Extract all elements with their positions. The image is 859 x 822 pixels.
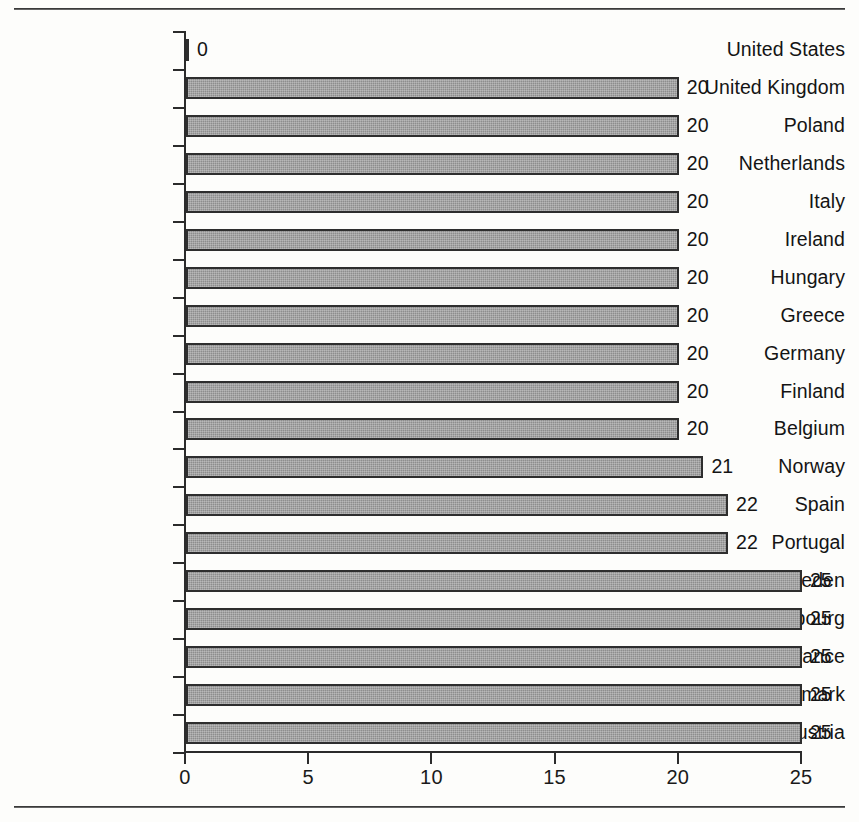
y-axis-tick <box>173 752 184 754</box>
y-axis-tick <box>173 69 184 71</box>
bar-value-label: 25 <box>810 569 832 591</box>
category-label: Ireland <box>683 228 859 250</box>
bar <box>186 418 679 440</box>
bar <box>186 494 728 516</box>
x-axis-tick-label: 0 <box>155 766 215 789</box>
bar-value-label: 22 <box>736 493 758 515</box>
x-axis-tick-label: 5 <box>278 766 338 789</box>
bar-value-label: 0 <box>197 38 208 60</box>
bar-value-label: 25 <box>810 645 832 667</box>
bar-value-label: 20 <box>687 114 709 136</box>
y-axis-tick <box>173 486 184 488</box>
category-label: Belgium <box>683 417 859 439</box>
y-axis-tick <box>173 714 184 716</box>
x-axis-tick <box>307 753 309 764</box>
y-axis-tick <box>173 524 184 526</box>
category-label: Netherlands <box>683 152 859 174</box>
y-axis-tick <box>173 259 184 261</box>
y-axis-tick <box>173 335 184 337</box>
x-axis-line <box>184 751 802 753</box>
bar <box>186 267 679 289</box>
bar <box>186 305 679 327</box>
x-axis-tick <box>184 753 186 764</box>
bar <box>186 229 679 251</box>
bar-value-label: 20 <box>687 152 709 174</box>
bar-value-label: 20 <box>687 266 709 288</box>
x-axis-tick <box>677 753 679 764</box>
bar <box>186 570 802 592</box>
y-axis-tick <box>173 600 184 602</box>
category-label: Poland <box>683 114 859 136</box>
category-label: Norway <box>683 455 859 477</box>
bar-value-label: 20 <box>687 304 709 326</box>
category-label: Italy <box>683 190 859 212</box>
y-axis-tick <box>173 676 184 678</box>
bar-value-label: 22 <box>736 531 758 553</box>
bar <box>186 39 189 61</box>
bar <box>186 646 802 668</box>
bar <box>186 722 802 744</box>
bar-value-label: 20 <box>687 417 709 439</box>
bar-chart-plot-area: United States0United Kingdom20Poland20Ne… <box>0 0 859 822</box>
y-axis-tick <box>173 107 184 109</box>
x-axis-tick <box>430 753 432 764</box>
bar <box>186 343 679 365</box>
y-axis-tick <box>173 297 184 299</box>
category-label: United Kingdom <box>683 76 859 98</box>
bar <box>186 115 679 137</box>
category-label: Hungary <box>683 266 859 288</box>
category-label: United States <box>683 38 859 60</box>
bar-value-label: 20 <box>687 228 709 250</box>
bar-value-label: 20 <box>687 342 709 364</box>
y-axis-tick <box>173 221 184 223</box>
category-label: Greece <box>683 304 859 326</box>
y-axis-tick <box>173 373 184 375</box>
y-axis-tick <box>173 448 184 450</box>
bar-value-label: 20 <box>687 190 709 212</box>
bar <box>186 532 728 554</box>
bar <box>186 153 679 175</box>
y-axis-tick <box>173 638 184 640</box>
x-axis-tick-label: 20 <box>648 766 708 789</box>
bar <box>186 77 679 99</box>
x-axis-tick-label: 10 <box>401 766 461 789</box>
bar-value-label: 21 <box>711 455 733 477</box>
bar-value-label: 20 <box>687 76 709 98</box>
category-label: Germany <box>683 342 859 364</box>
x-axis-tick-label: 25 <box>771 766 831 789</box>
y-axis-tick <box>173 562 184 564</box>
bar-value-label: 25 <box>810 683 832 705</box>
y-axis-tick <box>173 411 184 413</box>
bar <box>186 191 679 213</box>
bar-value-label: 25 <box>810 607 832 629</box>
bar <box>186 456 703 478</box>
bar-value-label: 25 <box>810 721 832 743</box>
y-axis-tick <box>173 183 184 185</box>
chart-page: United States0United Kingdom20Poland20Ne… <box>0 0 859 822</box>
x-axis-tick <box>800 753 802 764</box>
x-axis-tick <box>554 753 556 764</box>
bar <box>186 608 802 630</box>
y-axis-tick <box>173 145 184 147</box>
bar <box>186 684 802 706</box>
category-label: Finland <box>683 380 859 402</box>
x-axis-tick-label: 15 <box>525 766 585 789</box>
bar <box>186 381 679 403</box>
bar-value-label: 20 <box>687 380 709 402</box>
y-axis-tick <box>173 31 184 33</box>
